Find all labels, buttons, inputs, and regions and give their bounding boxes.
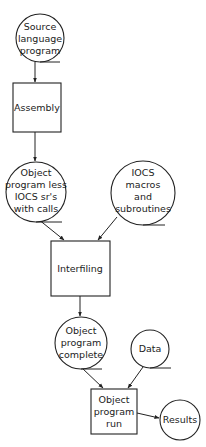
label-results: Results (163, 414, 197, 425)
node-object-program-less-iocs: Object program less IOCS sr's with calls (5, 162, 67, 222)
label-iocs-line2: macros (126, 179, 161, 190)
label-objcomplete-line1: Object (66, 325, 97, 336)
node-object-program-complete: Object program complete (55, 317, 107, 369)
node-source-language-program: Source language program (16, 14, 64, 62)
label-objectless-line3: IOCS sr's (15, 191, 57, 202)
label-data: Data (139, 343, 162, 354)
label-iocs-line3: and (134, 191, 152, 202)
label-run-line2: program (94, 406, 135, 417)
label-objcomplete-line2: program (61, 337, 102, 348)
label-source-line1: Source (24, 21, 57, 32)
label-run-line3: run (106, 418, 122, 429)
node-assembly: Assembly (13, 83, 61, 132)
edge-objectcomplete-run (82, 368, 103, 388)
label-source-line3: program (20, 45, 61, 56)
edge-data-run (128, 367, 143, 388)
label-interfiling: Interfiling (57, 263, 103, 274)
label-objectless-line2: program less (5, 179, 67, 190)
node-data: Data (131, 330, 171, 368)
label-source-line2: language (18, 33, 62, 44)
node-interfiling: Interfiling (51, 241, 110, 296)
node-iocs-macros-subroutines: IOCS macros and subroutines (111, 161, 175, 225)
label-run-line1: Object (99, 394, 130, 405)
label-objectless-line4: with calls (14, 203, 58, 214)
label-objectless-line1: Object (21, 167, 52, 178)
edge-iocs-interfiling (98, 217, 117, 240)
flowchart: Source language program Assembly Object … (0, 0, 206, 447)
label-objcomplete-line3: complete (59, 349, 104, 360)
label-assembly: Assembly (14, 102, 60, 113)
label-iocs-line1: IOCS (132, 167, 155, 178)
node-object-program-run: Object program run (91, 389, 137, 434)
node-results: Results (160, 400, 200, 440)
label-iocs-line4: subroutines (115, 203, 171, 214)
edge-run-results (137, 413, 159, 418)
